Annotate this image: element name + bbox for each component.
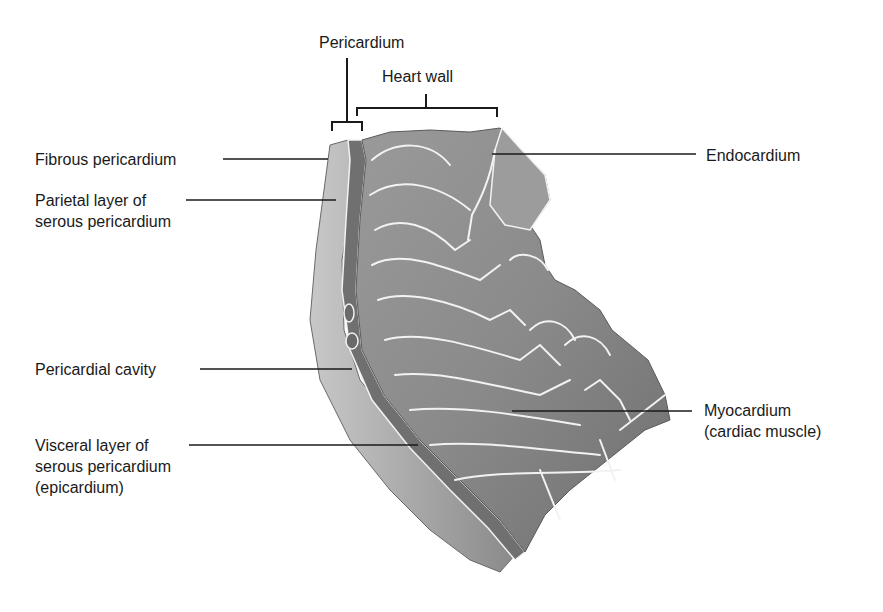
coronary-vessel-icon [344, 304, 354, 322]
pericardium-label: Pericardium [319, 32, 404, 53]
pericardium-bracket [332, 58, 362, 131]
heart-wall-bracket [357, 94, 497, 117]
visceral-layer-label: Visceral layer of serous pericardium (ep… [35, 435, 171, 498]
parietal-layer-label: Parietal layer of serous pericardium [35, 190, 171, 232]
heart-wall-illustration [0, 0, 883, 612]
heart-wall-label: Heart wall [382, 66, 453, 87]
myocardium-label: Myocardium (cardiac muscle) [704, 400, 821, 442]
pericardial-cavity-label: Pericardial cavity [35, 359, 156, 380]
coronary-vessel-icon [346, 333, 358, 349]
endocardium-surface [490, 128, 550, 230]
endocardium-label: Endocardium [706, 145, 800, 166]
fibrous-pericardium-label: Fibrous pericardium [35, 149, 176, 170]
